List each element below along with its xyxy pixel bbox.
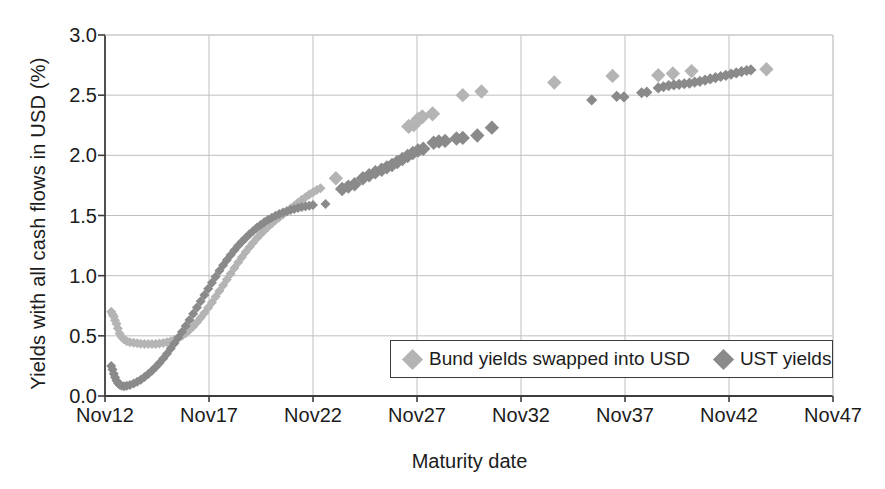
x-tick-label: Nov32: [492, 404, 550, 427]
legend-diamond-icon: [713, 348, 734, 369]
data-point: [320, 199, 330, 209]
x-axis-title: Maturity date: [105, 450, 834, 473]
x-tick-label: Nov22: [284, 404, 342, 427]
legend-diamond-icon: [402, 348, 423, 369]
data-point: [586, 94, 597, 105]
x-tick-label: Nov12: [76, 404, 134, 427]
data-point: [684, 64, 698, 78]
data-point: [605, 69, 619, 83]
chart-legend: Bund yields swapped into USDUST yields: [390, 340, 833, 378]
x-tick-label: Nov27: [388, 404, 446, 427]
x-tick-label: Nov17: [180, 404, 238, 427]
legend-entry: Bund yields swapped into USD: [405, 348, 690, 370]
data-point: [470, 128, 484, 142]
x-tick-label: Nov37: [596, 404, 654, 427]
data-point: [651, 68, 665, 82]
x-tick-label: Nov47: [804, 404, 862, 427]
legend-entry: UST yields: [716, 348, 832, 370]
data-series-bund: [106, 62, 773, 349]
legend-label: Bund yields swapped into USD: [429, 348, 690, 370]
data-point: [474, 84, 488, 98]
chart-figure: Yields with all cash flows in USD (%) 0.…: [0, 0, 885, 489]
data-point: [666, 66, 680, 80]
data-point: [618, 91, 629, 102]
data-point: [547, 75, 561, 89]
data-point: [456, 88, 470, 102]
x-tick-label: Nov42: [700, 404, 758, 427]
legend-label: UST yields: [740, 348, 832, 370]
data-point: [485, 120, 499, 134]
data-point: [759, 62, 773, 76]
